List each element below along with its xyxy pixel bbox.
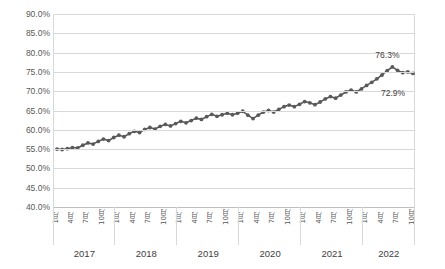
data-point-marker xyxy=(148,126,152,130)
data-point-marker xyxy=(138,131,142,135)
year-separator-tick xyxy=(300,207,301,245)
y-tick-label: 80.0% xyxy=(2,48,50,57)
x-tick-label: 7月 xyxy=(330,209,340,227)
y-tick-label: 70.0% xyxy=(2,87,50,96)
data-point-marker xyxy=(189,119,193,123)
x-tick-text: 1月 xyxy=(114,212,121,223)
data-point-marker xyxy=(308,101,312,105)
data-point-marker xyxy=(117,133,121,137)
gridline xyxy=(54,53,414,54)
x-tick-text: 7月 xyxy=(331,212,338,223)
x-tick-text: 7月 xyxy=(83,212,90,223)
gridline xyxy=(54,111,414,112)
data-label-last: 72.9% xyxy=(381,89,405,98)
data-point-marker xyxy=(112,136,116,140)
x-tick-text: 1月 xyxy=(238,212,245,223)
x-tick-text: 1月 xyxy=(176,212,183,223)
year-separator-tick xyxy=(176,207,177,245)
data-point-marker xyxy=(96,139,100,143)
data-point-marker xyxy=(375,77,379,81)
data-point-marker xyxy=(323,97,327,101)
x-tick-text: 1月 xyxy=(300,212,307,223)
x-year-label: 2017 xyxy=(74,249,95,259)
x-tick-label: 4月 xyxy=(66,209,76,227)
gridline xyxy=(54,149,414,150)
x-tick-text: 7月 xyxy=(207,212,214,223)
x-tick-text: 4月 xyxy=(378,212,385,223)
data-point-marker xyxy=(329,95,333,99)
x-tick-label: 10月 xyxy=(283,209,293,229)
y-axis: 90.0%85.0%80.0%75.0%70.0%65.0%60.0%55.0%… xyxy=(0,0,50,269)
data-point-marker xyxy=(179,119,183,123)
x-tick-label: 7月 xyxy=(82,209,92,227)
x-year-label: 2019 xyxy=(198,249,219,259)
gridline xyxy=(54,72,414,73)
data-point-marker xyxy=(210,112,214,116)
x-tick-text: 7月 xyxy=(269,212,276,223)
data-point-marker xyxy=(236,111,240,115)
data-point-marker xyxy=(231,113,235,117)
y-tick-label: 60.0% xyxy=(2,126,50,135)
gridline xyxy=(54,14,414,15)
x-tick-label: 10月 xyxy=(159,209,169,229)
data-point-marker xyxy=(163,123,167,127)
data-point-marker xyxy=(205,115,209,119)
data-point-marker xyxy=(334,96,338,100)
data-point-marker xyxy=(313,103,317,107)
data-point-marker xyxy=(86,141,90,145)
data-point-marker xyxy=(184,121,188,125)
x-tick-label: 4月 xyxy=(190,209,200,227)
x-tick-text: 7月 xyxy=(145,212,152,223)
data-point-marker xyxy=(122,135,126,139)
data-point-marker xyxy=(370,80,374,84)
series-polyline xyxy=(57,67,413,150)
data-point-marker xyxy=(225,111,229,115)
data-point-marker xyxy=(339,93,343,97)
data-point-marker xyxy=(365,84,369,88)
year-separator-tick xyxy=(114,207,115,245)
x-tick-label: 7月 xyxy=(144,209,154,227)
data-point-marker xyxy=(246,113,250,117)
x-tick-text: 4月 xyxy=(130,212,137,223)
data-label-peak: 76.3% xyxy=(375,51,399,60)
x-axis: 1月4月7月10月1月4月7月10月1月4月7月10月1月4月7月10月1月4月… xyxy=(53,207,415,269)
data-point-marker xyxy=(174,122,178,126)
data-point-marker xyxy=(303,100,307,104)
x-year-label: 2018 xyxy=(136,249,157,259)
data-point-marker xyxy=(107,139,111,143)
gridline xyxy=(54,130,414,131)
y-tick-label: 90.0% xyxy=(2,10,50,19)
data-point-marker xyxy=(282,105,286,109)
y-tick-label: 50.0% xyxy=(2,164,50,173)
gridline xyxy=(54,188,414,189)
x-tick-label: 4月 xyxy=(128,209,138,227)
data-point-marker xyxy=(158,124,162,128)
line-chart: 90.0%85.0%80.0%75.0%70.0%65.0%60.0%55.0%… xyxy=(0,0,445,269)
x-tick-label: 7月 xyxy=(268,209,278,227)
year-separator-tick xyxy=(53,207,54,245)
x-tick-label: 7月 xyxy=(392,209,402,227)
data-point-marker xyxy=(251,117,255,121)
y-tick-label: 65.0% xyxy=(2,106,50,115)
year-separator-tick xyxy=(414,207,415,245)
gridline xyxy=(54,168,414,169)
x-year-label: 2020 xyxy=(260,249,281,259)
year-separator-tick xyxy=(362,207,363,245)
x-tick-text: 4月 xyxy=(254,212,261,223)
data-point-marker xyxy=(298,102,302,106)
x-tick-label: 4月 xyxy=(314,209,324,227)
data-point-marker xyxy=(292,105,296,109)
x-tick-text: 10月 xyxy=(99,209,106,225)
x-tick-label: 10月 xyxy=(97,209,107,229)
x-year-label: 2022 xyxy=(378,249,399,259)
data-point-marker xyxy=(127,132,131,136)
x-tick-label: 4月 xyxy=(252,209,262,227)
data-point-marker xyxy=(102,137,106,141)
x-tick-label: 10月 xyxy=(221,209,231,229)
year-separator-tick xyxy=(238,207,239,245)
data-point-marker xyxy=(287,103,291,107)
x-tick-label: 7月 xyxy=(206,209,216,227)
y-tick-label: 85.0% xyxy=(2,29,50,38)
y-tick-label: 40.0% xyxy=(2,203,50,212)
data-point-marker xyxy=(318,100,322,104)
